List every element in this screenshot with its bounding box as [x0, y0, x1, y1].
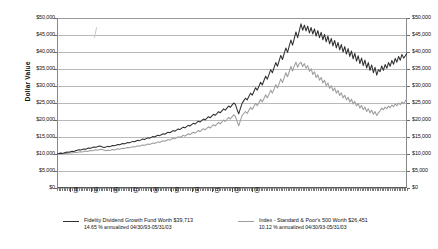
legend-item-index: Index - Standard & Poor's 500 Worth $26,… — [238, 217, 368, 230]
y-axis-tick-label-right: $25,000 — [412, 100, 431, 105]
y-axis-tick — [54, 18, 57, 19]
y-axis-tick — [407, 69, 410, 70]
y-axis-tick-label-left: $50,000 — [36, 15, 55, 20]
y-axis-tick-label-right: $20,000 — [412, 117, 431, 122]
legend-sublabel-index: 10.12 % annualized 04/30/93-05/31/03 — [259, 224, 368, 230]
chart-legend: Fidelity Dividend Growth Fund Worth $39,… — [0, 214, 438, 244]
y-axis-tick — [407, 86, 410, 87]
y-axis-tick-label-left: $20,000 — [36, 117, 55, 122]
y-axis-tick-label-right: $10,000 — [412, 151, 431, 156]
x-axis-tick-label: 00 — [194, 187, 200, 193]
x-axis-major-tick — [232, 188, 233, 192]
legend-swatch-index-icon — [238, 221, 254, 222]
y-axis-tick-label-left: $35,000 — [36, 66, 55, 71]
y-axis-tick-label-left: $40,000 — [36, 49, 55, 54]
y-axis-tick — [407, 137, 410, 138]
x-axis-tick-label: 03 — [254, 187, 260, 193]
y-axis-tick — [407, 35, 410, 36]
x-axis-major-tick — [131, 188, 132, 192]
x-axis-major-tick — [192, 188, 193, 192]
x-axis-tick-label: 97 — [133, 187, 139, 193]
x-axis-major-tick — [111, 188, 112, 192]
y-axis-tick-label-left: $15,000 — [36, 134, 55, 139]
x-axis-ticks — [57, 188, 407, 193]
x-axis-tick-label: 02 — [234, 187, 240, 193]
series-layer — [57, 18, 407, 188]
y-axis-tick-label-right: $45,000 — [412, 32, 431, 37]
y-axis-tick-label-left: $45,000 — [36, 32, 55, 37]
y-axis-tick — [407, 103, 410, 104]
x-axis-tick-label: 96 — [113, 187, 119, 193]
y-axis-tick — [407, 188, 410, 189]
x-axis-major-tick — [91, 188, 92, 192]
y-axis-tick-label-right: $40,000 — [412, 49, 431, 54]
y-axis-tick — [54, 103, 57, 104]
y-axis-tick — [54, 171, 57, 172]
legend-label-fund: Fidelity Dividend Growth Fund Worth $39,… — [84, 217, 193, 224]
y-axis-title: Dollar Value — [24, 47, 31, 117]
y-axis-tick — [407, 154, 410, 155]
y-axis-tick — [54, 154, 57, 155]
legend-sublabel-fund: 14.65 % annualized 04/30/93-05/31/03 — [84, 224, 193, 230]
y-axis-tick — [54, 52, 57, 53]
y-axis-tick-label-right: $5,000 — [412, 168, 428, 173]
y-axis-tick-label-left: $5,000 — [39, 168, 55, 173]
legend-label-index: Index - Standard & Poor's 500 Worth $26,… — [259, 217, 368, 224]
x-axis-tick-label: 94 — [73, 187, 79, 193]
x-axis-tick-label: 01 — [214, 187, 220, 193]
growth-of-investment-chart: Dollar Value Fidelity Dividend Growth Fu… — [0, 0, 438, 249]
y-axis-tick-label-right: $35,000 — [412, 66, 431, 71]
y-axis-tick-label-right: $15,000 — [412, 134, 431, 139]
y-axis-tick-label-right: $30,000 — [412, 83, 431, 88]
y-axis-tick — [54, 86, 57, 87]
y-axis-tick — [54, 120, 57, 121]
series-line-index — [57, 62, 407, 154]
y-axis-tick-label-right: $0 — [412, 185, 418, 190]
y-axis-tick — [407, 18, 410, 19]
y-axis-tick — [407, 52, 410, 53]
x-axis-tick-label: 98 — [153, 187, 159, 193]
y-axis-tick-label-left: $10,000 — [36, 151, 55, 156]
y-axis-tick — [407, 120, 410, 121]
y-axis-tick — [54, 137, 57, 138]
x-axis-major-tick — [212, 188, 213, 192]
series-line-fund — [57, 24, 407, 154]
x-axis-tick-label: 99 — [174, 187, 180, 193]
y-axis-tick — [54, 188, 57, 189]
x-axis-major-tick — [70, 188, 71, 192]
y-axis-tick-label-right: $50,000 — [412, 15, 431, 20]
y-axis-tick — [407, 171, 410, 172]
y-axis-tick-label-left: $25,000 — [36, 100, 55, 105]
y-axis-tick — [54, 69, 57, 70]
x-axis-tick-label: 95 — [93, 187, 99, 193]
legend-swatch-fund-icon — [63, 221, 79, 222]
y-axis-tick — [54, 35, 57, 36]
x-axis-major-tick — [171, 188, 172, 192]
legend-item-fund: Fidelity Dividend Growth Fund Worth $39,… — [63, 217, 193, 230]
y-axis-tick-label-left: $30,000 — [36, 83, 55, 88]
